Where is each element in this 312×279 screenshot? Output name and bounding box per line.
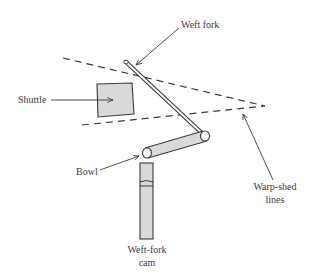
- weft-fork-diagram: [0, 0, 312, 279]
- bowl-label: Bowl: [76, 165, 98, 178]
- weft-fork-label: Weft fork: [181, 18, 219, 31]
- weft-fork-cam-label-line2: cam: [119, 256, 175, 269]
- pivot-end: [201, 131, 210, 141]
- weft-fork-arrow: [136, 28, 179, 65]
- weft-fork-rod: [124, 60, 205, 136]
- bowl-end: [143, 148, 152, 158]
- warp-shed-label-line2: lines: [247, 193, 303, 206]
- warp-shed-lines-label: Warp-shed lines: [247, 180, 303, 206]
- shuttle-label: Shuttle: [18, 93, 46, 106]
- weft-fork-cam: [140, 163, 153, 239]
- warp-shed-arrow: [243, 114, 273, 180]
- weft-fork-cam-label: Weft-fork cam: [119, 243, 175, 269]
- bowl-lever: [143, 131, 210, 158]
- warp-shed-lines: [63, 58, 265, 125]
- weft-fork-tip: [124, 60, 128, 64]
- bowl-arrow: [100, 156, 139, 170]
- warp-shed-label-line1: Warp-shed: [247, 180, 303, 193]
- weft-fork-cam-label-line1: Weft-fork: [119, 243, 175, 256]
